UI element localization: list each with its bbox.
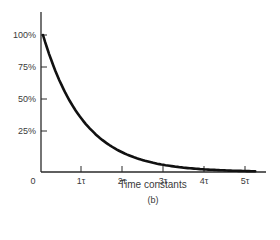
y-ticks [41,35,47,131]
x-tick-label: 5τ [241,176,250,186]
y-tick-label: 100% [0,30,36,40]
y-tick-label: 25% [0,126,36,136]
x-tick-label: 1τ [77,176,86,186]
y-tick-label: 50% [0,94,36,104]
x-axis-title: Time constants [119,179,186,190]
y-tick-label: 75% [0,62,36,72]
x-tick-label: 0 [30,176,35,186]
decay-curve [43,35,255,171]
figure-caption: (b) [148,195,159,205]
x-tick-label: 4τ [200,176,209,186]
